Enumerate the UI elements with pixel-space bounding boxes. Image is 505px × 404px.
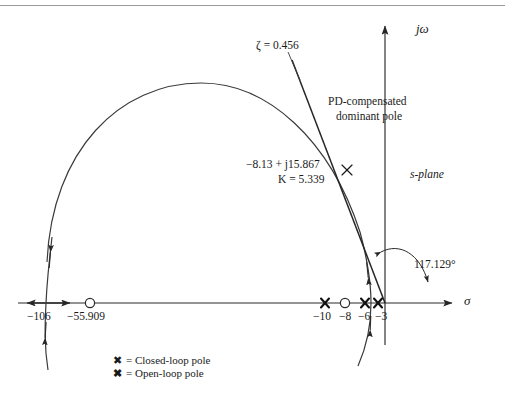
thin-x-icon: ✖ [113, 354, 122, 367]
bold-x-icon: ✖ [113, 367, 122, 380]
closed-loop-pole-marker [342, 165, 352, 175]
gain-value-label: K = 5.339 [278, 173, 324, 186]
tick-label-minus55909: −55.909 [67, 310, 105, 323]
zeta-label: ζ = 0.456 [256, 39, 299, 52]
open-loop-zero-minus8 [340, 298, 349, 307]
tick-label-minus6: −6 [358, 310, 370, 323]
sigma-axis-label: σ [464, 294, 470, 309]
dominant-pole-annotation-line1: PD-compensated [328, 95, 407, 108]
legend-label-open-loop-pole: = Open-loop pole [126, 367, 204, 380]
legend-label-closed-loop-pole: = Closed-loop pole [126, 354, 210, 367]
tick-label-minus8: −8 [339, 310, 351, 323]
legend-item-closed-loop-pole: ✖ = Closed-loop pole [113, 354, 210, 367]
zeta-label-leader [288, 52, 300, 80]
open-loop-zero-minus55909 [85, 298, 94, 307]
dominant-pole-coordinate-label: −8.13 + j15.867 [246, 158, 320, 171]
legend: ✖ = Closed-loop pole ✖ = Open-loop pole [113, 354, 210, 379]
root-locus-figure: jω σ s-plane ζ = 0.456 PD-compensated do… [0, 0, 505, 404]
root-locus-canvas [0, 0, 505, 404]
tick-label-minus3: −3 [375, 310, 387, 323]
angle-label: 117.129° [414, 258, 456, 271]
tick-label-minus106: −106 [27, 310, 51, 323]
tick-label-minus10: −10 [313, 310, 331, 323]
jomega-axis-label: jω [416, 22, 429, 37]
dominant-pole-annotation-line2: dominant pole [336, 110, 402, 123]
s-plane-label: s-plane [410, 168, 444, 181]
legend-item-open-loop-pole: ✖ = Open-loop pole [113, 367, 210, 380]
